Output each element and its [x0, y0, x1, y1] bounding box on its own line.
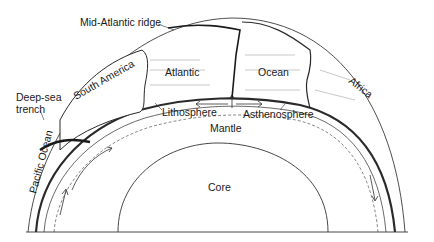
- label-trench: trench: [16, 103, 45, 115]
- label-pacific-ocean: Pacific Ocean: [26, 129, 54, 195]
- earth-cross-section-diagram: Mid-Atlantic ridge South America Atlanti…: [0, 0, 434, 242]
- label-deep-sea: Deep-sea: [16, 91, 62, 103]
- label-lithosphere: Lithosphere: [162, 106, 217, 118]
- label-ocean: Ocean: [258, 66, 289, 78]
- label-africa: Africa: [347, 74, 376, 100]
- label-mantle: Mantle: [210, 122, 242, 134]
- africa-continent-edge: [242, 22, 311, 108]
- label-asthenosphere: Asthenosphere: [243, 108, 314, 120]
- label-core: Core: [208, 181, 231, 193]
- ridge-crest: [168, 25, 240, 98]
- label-atlantic: Atlantic: [165, 66, 199, 78]
- label-mid-atlantic-ridge: Mid-Atlantic ridge: [80, 16, 161, 28]
